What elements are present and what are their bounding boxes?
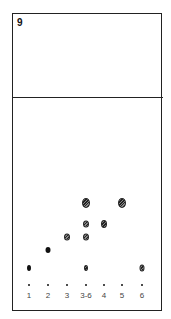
spot-lane-3-6 — [82, 198, 90, 208]
origin-dot — [66, 284, 68, 286]
lane-label: 1 — [27, 291, 31, 300]
origin-dot — [28, 284, 30, 286]
origin-dot — [47, 284, 49, 286]
origin-dot — [85, 284, 87, 286]
spot-lane-2 — [46, 247, 51, 253]
spot-lane-3 — [64, 234, 70, 241]
spot-lane-6 — [140, 265, 145, 272]
lane-label: 2 — [46, 291, 50, 300]
solvent-front-line — [12, 97, 163, 98]
origin-dot — [103, 284, 105, 286]
panel-label: 9 — [17, 17, 23, 28]
origin-dot — [121, 284, 123, 286]
lane-label: 4 — [102, 291, 106, 300]
lane-label: 5 — [120, 291, 124, 300]
spot-lane-3-6 — [83, 234, 89, 241]
spot-lane-5 — [118, 198, 126, 208]
lane-label: 3 — [65, 291, 69, 300]
origin-dot — [141, 284, 143, 286]
spot-lane-3-6 — [83, 221, 89, 228]
spot-lane-1 — [27, 265, 31, 271]
spot-lane-4 — [101, 220, 107, 228]
lane-label: 3-6 — [80, 291, 92, 300]
lane-label: 6 — [140, 291, 144, 300]
spot-lane-3-6 — [84, 265, 88, 271]
